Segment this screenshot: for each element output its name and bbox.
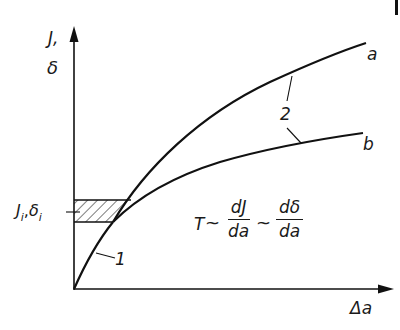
leader-2-to-b <box>287 128 301 143</box>
x-axis-arrow-icon <box>378 285 394 294</box>
initiation-value-label: Ji,δi <box>16 203 42 219</box>
leader-2-to-a <box>287 76 292 101</box>
y-axis-label: J, <box>48 30 58 47</box>
curve-b-label: b <box>363 136 374 153</box>
formula-tilde-2: ~ <box>256 214 271 232</box>
y-axis-label-j: J, <box>48 28 58 48</box>
formula-tilde-1: ~ <box>205 214 220 232</box>
y-axis <box>70 26 79 290</box>
formula-fraction-dj-da: dJ da <box>225 199 252 240</box>
formula-fraction-ddelta-da: dδ da <box>276 199 303 240</box>
curve-a-label: a <box>367 46 377 63</box>
y-axis-arrow-icon <box>70 26 79 42</box>
x-axis-label: Δa <box>350 300 372 317</box>
curve-a <box>113 43 366 222</box>
formula-lhs: T <box>194 216 204 233</box>
y-axis-label-delta: δ <box>47 59 58 77</box>
page-edge-mark <box>395 0 398 15</box>
curve-1-label: 1 <box>115 251 126 268</box>
diagram-canvas <box>0 0 400 330</box>
curve-2-label: 2 <box>280 106 291 123</box>
resistance-curve-diagram: J, δ Ji,δi a b 1 2 Δa T ~ dJ da ~ dδ da <box>0 0 400 330</box>
x-axis <box>74 285 394 294</box>
leader-1 <box>96 253 115 258</box>
